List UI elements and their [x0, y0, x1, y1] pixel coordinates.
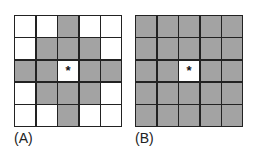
shaded-cell	[158, 38, 178, 59]
center-cell: *	[179, 61, 199, 82]
shaded-cell	[222, 105, 242, 126]
shaded-cell	[179, 38, 199, 59]
empty-cell	[101, 83, 121, 104]
grid-a: *	[14, 15, 122, 127]
shaded-cell	[80, 38, 100, 59]
empty-cell	[101, 16, 121, 37]
shaded-cell	[158, 105, 178, 126]
shaded-cell	[136, 61, 156, 82]
shaded-cell	[37, 83, 57, 104]
empty-cell	[80, 16, 100, 37]
shaded-cell	[58, 83, 78, 104]
shaded-cell	[179, 105, 199, 126]
shaded-cell	[179, 83, 199, 104]
shaded-cell	[222, 38, 242, 59]
shaded-cell	[58, 38, 78, 59]
panel-b-label: (B)	[135, 130, 154, 146]
shaded-cell	[136, 105, 156, 126]
shaded-cell	[158, 83, 178, 104]
shaded-cell	[80, 61, 100, 82]
shaded-cell	[136, 83, 156, 104]
empty-cell	[37, 16, 57, 37]
shaded-cell	[222, 61, 242, 82]
shaded-cell	[101, 61, 121, 82]
shaded-cell	[15, 61, 35, 82]
shaded-cell	[37, 38, 57, 59]
empty-cell	[15, 38, 35, 59]
shaded-cell	[58, 16, 78, 37]
shaded-cell	[201, 105, 221, 126]
shaded-cell	[201, 16, 221, 37]
shaded-cell	[136, 38, 156, 59]
shaded-cell	[136, 16, 156, 37]
panel-a-label: (A)	[14, 130, 33, 146]
center-cell: *	[58, 61, 78, 82]
shaded-cell	[158, 16, 178, 37]
shaded-cell	[222, 16, 242, 37]
empty-cell	[15, 16, 35, 37]
empty-cell	[15, 83, 35, 104]
shaded-cell	[201, 38, 221, 59]
empty-cell	[80, 105, 100, 126]
empty-cell	[101, 105, 121, 126]
grid-b: *	[135, 15, 243, 127]
empty-cell	[37, 105, 57, 126]
shaded-cell	[58, 105, 78, 126]
shaded-cell	[80, 83, 100, 104]
shaded-cell	[179, 16, 199, 37]
empty-cell	[15, 105, 35, 126]
shaded-cell	[201, 83, 221, 104]
shaded-cell	[201, 61, 221, 82]
empty-cell	[101, 38, 121, 59]
shaded-cell	[37, 61, 57, 82]
shaded-cell	[222, 83, 242, 104]
shaded-cell	[158, 61, 178, 82]
